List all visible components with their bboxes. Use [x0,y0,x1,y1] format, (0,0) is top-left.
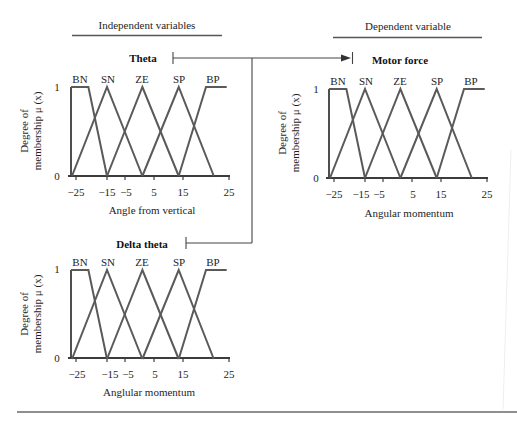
dependent-variable-label: Dependent variable [365,20,451,32]
plot-delta-theta: Delta theta BN SN ZE SP BP 1 0 Degree of… [18,238,235,398]
set-label-bn: BN [72,73,87,85]
y-axis-label-line2: membership μ (x) [289,93,302,172]
y-axis-label-line1: Degree of [18,109,30,153]
set-label-ze: ZE [135,73,149,85]
plot-theta: Theta BN SN ZE SP BP 1 0 Degree of membe… [18,52,235,216]
x-tick-label: −25 [325,188,343,200]
y-axis-label-line2: membership μ (x) [31,274,44,353]
x-tick-label: 15 [178,368,190,380]
set-label-bn: BN [330,75,345,87]
x-tick-label: 5 [410,188,416,200]
set-label-ze: ZE [393,75,407,87]
y-tick-0: 0 [313,172,319,184]
x-tick-label: 25 [224,368,236,380]
independent-variables-label: Independent variables [99,19,196,31]
set-label-bp: BP [206,73,219,85]
figure-canvas: Independent variables Dependent variable… [0,0,517,425]
membership-curve-ze [107,87,179,176]
membership-curve-sn [72,87,142,176]
x-tick-label: −5 [373,188,385,200]
plot-title: Motor force [372,54,428,66]
x-tick-label: 25 [482,188,494,200]
set-label-bp: BP [206,256,219,268]
set-label-bn: BN [72,256,87,268]
x-tick-label: 15 [436,188,448,200]
y-tick-0: 0 [54,170,60,182]
plot-motor-force: Motor force BN SN ZE SP BP 1 0 Degree of… [276,54,493,219]
x-tick-label: −15 [101,368,119,380]
x-tick-label: −15 [352,188,370,200]
x-tick-label: 25 [224,186,236,198]
x-tick-label: −25 [68,368,86,380]
connector-lines [173,52,353,249]
y-axis-label-line1: Degree of [276,111,288,155]
arrowhead-icon [341,55,351,62]
membership-curves [71,270,227,359]
membership-curve-sn [72,270,142,359]
y-axis-label-line1: Degree of [18,292,30,336]
x-tick-label: 5 [151,186,157,198]
plot-title: Delta theta [116,238,168,250]
membership-curve-bp [179,270,227,359]
y-axis-label-line2: membership μ (x) [31,91,44,170]
x-tick-label: −15 [98,186,116,198]
fuzzy-membership-figure: Independent variables Dependent variable… [0,0,517,425]
membership-curve-ze [107,270,179,359]
set-label-sn: SN [359,75,373,87]
x-tick-label: −5 [122,368,134,380]
y-tick-1: 1 [313,83,319,95]
x-tick-label: −5 [120,186,132,198]
x-tick-label: 5 [152,368,158,380]
set-label-sn: SN [101,256,115,268]
set-label-bp: BP [464,75,477,87]
y-tick-1: 1 [54,263,60,275]
membership-curve-sp [142,270,213,359]
set-label-sp: SP [431,75,443,87]
y-tick-0: 0 [54,352,60,364]
membership-curve-sp [142,87,213,176]
plot-title: Theta [129,52,157,64]
membership-curve-ze [365,89,437,178]
membership-curve-sp [400,89,471,178]
x-axis-label: Angle from vertical [109,204,196,216]
scan-edge-line [503,150,511,410]
membership-curve-bp [437,89,485,178]
y-tick-1: 1 [54,81,60,93]
x-axis-label: Angular momentum [365,207,454,219]
set-label-sp: SP [173,256,185,268]
x-axis-label: Anglular momentum [103,386,195,398]
x-tick-label: −25 [67,186,85,198]
set-label-sp: SP [173,73,185,85]
x-tick-label: 15 [178,186,190,198]
membership-curves [329,89,485,178]
membership-curve-sn [330,89,400,178]
set-label-ze: ZE [135,256,149,268]
membership-curve-bp [179,87,227,176]
set-label-sn: SN [101,73,115,85]
membership-curves [71,87,227,176]
